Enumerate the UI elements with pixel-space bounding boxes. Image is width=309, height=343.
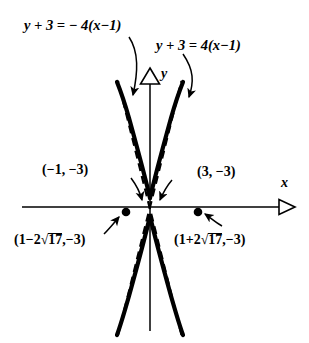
vertex-label-right: (3, −3) xyxy=(197,165,235,179)
focus-right-dot xyxy=(194,208,203,217)
y-axis-label: y xyxy=(161,67,167,81)
focus-label-left: (1−2√17,−3) xyxy=(14,233,85,247)
leader-arrow-left-equation xyxy=(129,37,137,95)
y-axis-arrowhead-icon xyxy=(141,68,160,84)
radical-bar-right-icon xyxy=(208,233,222,234)
equation-label-left: y + 3 = − 4(x−1) xyxy=(24,18,121,33)
radical-bar-left-icon xyxy=(48,233,62,234)
focus-left-prefix: (1−2 xyxy=(14,232,41,247)
x-axis-arrowhead-icon xyxy=(279,200,295,215)
radical-left: √17 xyxy=(41,233,63,247)
equation-label-right: y + 3 = 4(x−1) xyxy=(156,38,241,53)
focus-markers-group xyxy=(122,208,203,217)
x-axis-label: x xyxy=(281,176,288,190)
hyperbola-upper-right-arm xyxy=(150,82,183,198)
leader-arrow-right-focus xyxy=(205,214,222,226)
leader-arrow-right-vertex xyxy=(160,180,172,200)
equation-left-text: y + 3 = − 4(x−1) xyxy=(24,17,121,33)
focus-left-dot xyxy=(122,208,131,217)
focus-right-prefix: (1+2 xyxy=(174,232,201,247)
leader-arrow-left-vertex xyxy=(131,178,142,200)
leader-arrow-right-equation xyxy=(183,54,192,97)
hyperbola-lower-left-arm xyxy=(117,216,150,335)
equation-right-text: y + 3 = 4(x−1) xyxy=(156,37,241,53)
leader-arrow-left-focus xyxy=(104,217,119,234)
focus-label-right: (1+2√17,−3) xyxy=(174,233,245,247)
focus-right-suffix: ,−3) xyxy=(222,232,245,247)
radical-right: √17 xyxy=(201,233,223,247)
axes-group xyxy=(22,68,295,331)
vertex-label-left: (−1, −3) xyxy=(42,163,88,177)
focus-left-suffix: ,−3) xyxy=(62,232,85,247)
